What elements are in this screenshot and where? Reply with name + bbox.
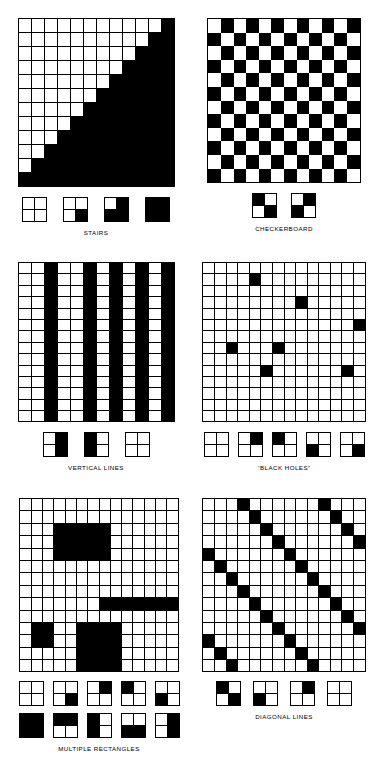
diagonal-lines-cell-5-8 <box>296 561 307 572</box>
multiple-rectangles-cell-10-1 <box>32 623 42 634</box>
multiple-rectangles-r2-tile-0-quadrant-0 <box>20 714 31 725</box>
multiple-rectangles-cell-3-8 <box>111 536 121 547</box>
black-holes-cell-1-2 <box>227 274 238 284</box>
black-holes-cell-12-3 <box>238 400 249 410</box>
black-holes-cell-4-3 <box>238 309 249 319</box>
vertical-lines-cell-7-3 <box>58 343 70 353</box>
multiple-rectangles-cell-13-6 <box>88 660 98 671</box>
multiple-rectangles-cell-6-8 <box>111 573 121 584</box>
black-holes-cell-5-6 <box>273 320 284 330</box>
checkerboard-cell-2-5 <box>271 46 284 60</box>
stairs-cell-8-10 <box>149 131 161 144</box>
black-holes-cell-13-6 <box>273 411 284 421</box>
stairs-cell-3-6 <box>97 61 109 74</box>
diagonal-lines-cell-12-4 <box>250 648 261 659</box>
diagonal-lines-cell-12-10 <box>319 648 330 659</box>
checkerboard-tile-1-quadrant-2 <box>292 206 303 217</box>
multiple-rectangles-cell-0-7 <box>100 499 110 510</box>
diagonal-lines-tile-1-quadrant-1 <box>266 682 277 693</box>
stairs-cell-8-7 <box>110 131 122 144</box>
multiple-rectangles-cell-3-5 <box>77 536 87 547</box>
black-holes-cell-13-8 <box>296 411 307 421</box>
multiple-rectangles-cell-11-3 <box>54 635 64 646</box>
multiple-rectangles-cell-4-11 <box>145 549 155 560</box>
diagonal-lines-cell-0-2 <box>227 499 238 510</box>
stairs-cell-7-1 <box>32 117 44 130</box>
diagonal-lines-cell-5-0 <box>203 561 214 572</box>
stairs-cell-11-0 <box>19 173 31 186</box>
black-holes-cell-8-6 <box>273 354 284 364</box>
diagonal-lines-cell-3-10 <box>319 536 330 547</box>
checkerboard-cell-4-9 <box>322 73 335 87</box>
stairs-cell-5-10 <box>149 89 161 102</box>
checkerboard-cell-2-7 <box>297 46 310 60</box>
diagonal-lines-tile-1-quadrant-2 <box>254 694 265 705</box>
black-holes-cell-12-5 <box>261 400 272 410</box>
multiple-rectangles-r2-tile-left-half-black <box>87 713 112 738</box>
diagonal-lines-cell-6-7 <box>285 573 296 584</box>
vertical-lines-tile-0-quadrant-2 <box>44 445 55 456</box>
panel-checkerboard: CHECKERBOARD <box>208 18 360 232</box>
multiple-rectangles-r1-tile-4-quadrant-2 <box>156 694 167 705</box>
black-holes-cell-2-0 <box>203 286 214 296</box>
diagonal-lines-cell-10-9 <box>308 623 319 634</box>
diagonal-lines-cell-12-5 <box>261 648 272 659</box>
vertical-lines-tile-all-white <box>125 432 150 457</box>
black-holes-cell-0-12 <box>342 263 353 273</box>
multiple-rectangles-cell-10-8 <box>111 623 121 634</box>
multiple-rectangles-r1-tile-0-quadrant-0 <box>20 682 31 693</box>
vertical-lines-cell-10-6 <box>97 377 109 387</box>
diagonal-lines-cell-1-8 <box>296 511 307 522</box>
black-holes-cell-11-3 <box>238 388 249 398</box>
stairs-cell-4-6 <box>97 75 109 88</box>
checkerboard-cell-3-3 <box>246 60 259 74</box>
diagonal-lines-cell-3-1 <box>215 536 226 547</box>
checkerboard-cell-8-2 <box>234 128 247 142</box>
vertical-lines-cell-11-5 <box>84 388 96 398</box>
multiple-rectangles-cell-0-5 <box>77 499 87 510</box>
black-holes-cell-12-12 <box>342 400 353 410</box>
checkerboard-cell-10-3 <box>246 155 259 169</box>
checkerboard-cell-8-7 <box>297 128 310 142</box>
multiple-rectangles-r2-tile-4-quadrant-3 <box>168 726 179 737</box>
diagonal-lines-tile-diagonal-top-left-bottom-right <box>216 681 241 706</box>
black-holes-cell-8-2 <box>227 354 238 364</box>
diagonal-lines-cell-10-5 <box>261 623 272 634</box>
vertical-lines-cell-2-0 <box>19 286 31 296</box>
diagonal-lines-cell-11-5 <box>261 635 272 646</box>
stairs-tile-three-black-top-left-white <box>104 197 129 222</box>
diagonal-lines-cell-13-4 <box>250 660 261 671</box>
diagonal-lines-cell-7-11 <box>331 586 342 597</box>
black-holes-cell-1-6 <box>273 274 284 284</box>
checkerboard-cell-7-8 <box>309 114 322 128</box>
multiple-rectangles-cell-1-12 <box>156 511 166 522</box>
black-holes-cell-7-11 <box>331 343 342 353</box>
vertical-lines-cell-7-0 <box>19 343 31 353</box>
vertical-lines-cell-8-5 <box>84 354 96 364</box>
black-holes-cell-11-12 <box>342 388 353 398</box>
vertical-lines-cell-6-6 <box>97 331 109 341</box>
multiple-rectangles-cell-4-6 <box>88 549 98 560</box>
stairs-cell-2-5 <box>84 47 96 60</box>
stairs-cell-3-4 <box>71 61 83 74</box>
diagonal-lines-cell-7-13 <box>354 586 365 597</box>
vertical-lines-cell-11-10 <box>149 388 161 398</box>
stairs-cell-0-6 <box>97 19 109 32</box>
multiple-rectangles-cell-3-10 <box>133 536 143 547</box>
multiple-rectangles-cell-12-13 <box>167 648 177 659</box>
checkerboard-cell-11-3 <box>246 169 259 183</box>
stairs-tile-0-quadrant-3 <box>35 210 46 221</box>
diagonal-lines-cell-8-1 <box>215 598 226 609</box>
vertical-lines-cell-1-8 <box>123 274 135 284</box>
checkerboard-cell-0-6 <box>284 19 297 33</box>
diagonal-lines-cell-10-3 <box>238 623 249 634</box>
vertical-lines-cell-2-2 <box>45 286 57 296</box>
multiple-rectangles-cell-0-6 <box>88 499 98 510</box>
multiple-rectangles-cell-12-3 <box>54 648 64 659</box>
panel-black-holes: “BLACK HOLES” <box>204 262 364 471</box>
checkerboard-cell-4-0 <box>208 73 221 87</box>
stairs-tile-2-quadrant-1 <box>117 198 128 209</box>
multiple-rectangles-cell-10-5 <box>77 623 87 634</box>
multiple-rectangles-cell-1-11 <box>145 511 155 522</box>
vertical-lines-cell-5-9 <box>136 320 148 330</box>
